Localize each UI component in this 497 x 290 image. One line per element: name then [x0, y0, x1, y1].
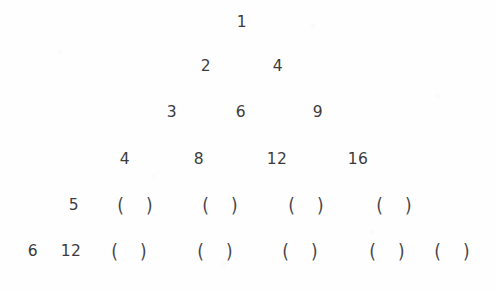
pyramid-blank-r5-c3[interactable]: () [202, 192, 237, 219]
paren-close-icon: ) [140, 236, 147, 265]
pyramid-value-r2-c2: 4 [273, 53, 283, 79]
paren-open-icon: ( [282, 236, 289, 265]
pyramid-value-r2-c1: 2 [201, 53, 211, 79]
paren-close-icon: ) [398, 236, 405, 265]
pyramid-row-1: 1 [0, 9, 497, 35]
paren-close-icon: ) [463, 236, 470, 265]
pyramid-row-5: 5()()()() [0, 192, 497, 218]
pyramid-row-2: 24 [0, 53, 497, 79]
pyramid-value-r5-c1: 5 [69, 192, 79, 218]
paren-close-icon: ) [317, 190, 324, 219]
pyramid-value-r3-c1: 3 [167, 99, 177, 125]
paren-open-icon: ( [197, 236, 204, 265]
pyramid-blank-r6-c3[interactable]: () [111, 238, 146, 265]
paren-open-icon: ( [288, 190, 295, 219]
paren-close-icon: ) [146, 190, 153, 219]
pyramid-row-4: 481216 [0, 146, 497, 172]
pyramid-row-6: 612()()()()() [0, 238, 497, 264]
paren-open-icon: ( [376, 190, 383, 219]
pyramid-value-r3-c2: 6 [236, 99, 246, 125]
pyramid-row-3: 369 [0, 99, 497, 125]
worksheet-page: 1243694812165()()()()612()()()()() [0, 0, 497, 290]
pyramid-blank-r6-c6[interactable]: () [369, 238, 404, 265]
pyramid-value-r4-c2: 8 [194, 146, 204, 172]
pyramid-blank-r5-c4[interactable]: () [288, 192, 323, 219]
pyramid-value-r4-c4: 16 [348, 146, 369, 172]
paren-close-icon: ) [311, 236, 318, 265]
pyramid-value-r4-c1: 4 [120, 146, 130, 172]
paren-open-icon: ( [117, 190, 124, 219]
pyramid-blank-r6-c4[interactable]: () [197, 238, 232, 265]
pyramid-value-r6-c2: 12 [61, 238, 82, 264]
paren-close-icon: ) [226, 236, 233, 265]
pyramid-value-r3-c3: 9 [313, 99, 323, 125]
paren-close-icon: ) [405, 190, 412, 219]
pyramid-value-r6-c1: 6 [28, 238, 38, 264]
paren-open-icon: ( [434, 236, 441, 265]
pyramid-blank-r6-c5[interactable]: () [282, 238, 317, 265]
pyramid-value-r4-c3: 12 [267, 146, 288, 172]
pyramid-blank-r5-c5[interactable]: () [376, 192, 411, 219]
paren-open-icon: ( [111, 236, 118, 265]
paren-open-icon: ( [369, 236, 376, 265]
paren-close-icon: ) [231, 190, 238, 219]
pyramid-value-r1-c1: 1 [237, 9, 247, 35]
pyramid-blank-r6-c7[interactable]: () [434, 238, 469, 265]
paren-open-icon: ( [202, 190, 209, 219]
pyramid-blank-r5-c2[interactable]: () [117, 192, 152, 219]
